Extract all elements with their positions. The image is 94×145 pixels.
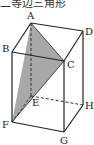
vertex-label-a: A <box>26 10 35 21</box>
vertex-label-e: E <box>32 97 39 108</box>
vertex-label-g: G <box>60 135 68 145</box>
vertex-label-d: D <box>85 26 93 37</box>
edge-gh <box>64 105 83 132</box>
vertex-label-f: F <box>2 119 9 130</box>
vertex-label-b: B <box>2 43 9 54</box>
prism-diagram: A D B C E H F G <box>0 0 94 145</box>
vertex-label-c: C <box>67 59 75 70</box>
vertex-label-h: H <box>85 100 94 111</box>
edge-fg <box>12 122 64 132</box>
edge-dc <box>64 31 83 61</box>
edge-ad <box>31 23 83 31</box>
